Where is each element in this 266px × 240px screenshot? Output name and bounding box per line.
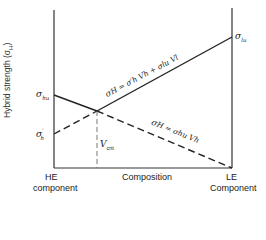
solid-line-left-segment bbox=[54, 95, 97, 111]
he-label-line2: component bbox=[33, 184, 78, 193]
vcrit-label: Vcrit bbox=[100, 140, 114, 151]
sigma-lu-label: σlu bbox=[235, 32, 246, 43]
sigma-prime-h-label: σ′h bbox=[36, 128, 44, 141]
dashed-line-left-segment bbox=[54, 111, 97, 134]
le-label-line1: LE bbox=[226, 173, 237, 182]
he-label-line1: HE bbox=[45, 173, 58, 182]
y-axis-label: Hybrid strength (σH) bbox=[2, 43, 14, 118]
x-axis-label: Composition bbox=[122, 173, 172, 182]
sigma-hu-label: σhu bbox=[36, 90, 49, 101]
solid-line-rising bbox=[97, 37, 232, 111]
le-label-line2: Component bbox=[210, 184, 257, 193]
dashed-line-falling bbox=[97, 111, 232, 168]
